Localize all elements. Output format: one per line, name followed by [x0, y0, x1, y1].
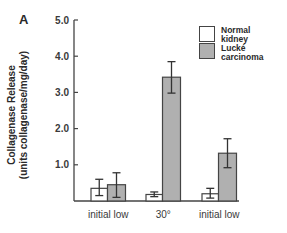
- bar-lucke-carcinoma: [163, 77, 181, 201]
- y-tick-label: 2.0: [55, 123, 69, 134]
- legend-label-lucke-line2: carcinoma: [221, 53, 287, 62]
- legend-swatch-normal-kidney: [199, 26, 215, 42]
- y-tick-label: 3.0: [55, 87, 69, 98]
- y-tick-label: 5.0: [55, 15, 69, 26]
- x-category-label: initial low: [88, 209, 129, 220]
- legend-swatch-lucke-carcinoma: [199, 43, 215, 59]
- x-category-label: 30°: [156, 209, 171, 220]
- y-tick-label: 1.0: [55, 159, 69, 170]
- y-tick-label: 4.0: [55, 51, 69, 62]
- x-category-label: initial low: [199, 209, 240, 220]
